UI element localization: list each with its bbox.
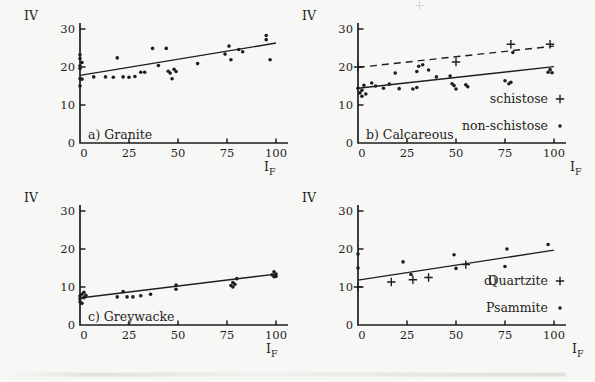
greywacke-point (149, 292, 153, 296)
schistose-legend-marker-icon (556, 95, 564, 103)
granite-point (92, 75, 96, 79)
non-schistose-point (370, 81, 374, 85)
figure-page: 01020300255075100a) GraniteIVIF 01020300… (0, 0, 595, 382)
y-tick-label: 10 (338, 280, 353, 294)
Quartzite-point (462, 260, 470, 268)
non-schistose-point (360, 94, 364, 98)
Quartzite-point (409, 276, 417, 284)
solid-trend-line (80, 43, 276, 75)
x-tick-label: 100 (265, 328, 287, 342)
Quartzite-point (354, 283, 362, 291)
legend-label-Psammite: Psammite (486, 300, 548, 315)
y-tick-label: 10 (60, 280, 75, 294)
x-tick-label: 100 (543, 328, 565, 342)
non-schistose-point (397, 87, 401, 91)
granite-point (78, 84, 82, 88)
non-schistose-legend-marker-icon (558, 124, 562, 128)
y-tick-label: 30 (338, 204, 353, 218)
non-schistose-point (509, 80, 513, 84)
granite-point (223, 52, 227, 56)
non-schistose-point (415, 86, 419, 90)
x-tick-label: 0 (358, 146, 365, 160)
x-tick-label: 100 (543, 146, 565, 160)
x-tick-label: 50 (171, 146, 186, 160)
x-tick-label: 75 (220, 146, 235, 160)
y-tick-label: 20 (60, 242, 75, 256)
x-axis-label: IF (570, 159, 582, 177)
x-tick-label: 25 (400, 146, 415, 160)
schistose-point (507, 40, 515, 48)
x-tick-label: 50 (449, 328, 464, 342)
non-schistose-point (548, 68, 552, 72)
axes (80, 205, 288, 325)
y-tick-label: 20 (338, 242, 353, 256)
x-tick-label: 100 (265, 146, 287, 160)
axes (80, 23, 288, 143)
granite-point (127, 75, 131, 79)
greywacke-point (80, 302, 84, 306)
y-axis-label: IV (302, 8, 317, 23)
granite-point (115, 56, 119, 60)
x-tick-label: 0 (358, 328, 365, 342)
y-tick-label: 20 (338, 60, 353, 74)
granite-point (104, 75, 108, 79)
Psammite-point (356, 252, 360, 256)
y-tick-label: 10 (60, 98, 75, 112)
x-tick-label: 25 (122, 328, 137, 342)
greywacke-point (233, 283, 237, 287)
Psammite-point (356, 266, 360, 270)
non-schistose-point (511, 51, 515, 55)
panel-title: c) Greywacke (88, 309, 174, 324)
y-tick-label: 30 (60, 22, 75, 36)
y-tick-label: 0 (346, 318, 353, 332)
legend-label-schistose: schistose (490, 91, 548, 106)
y-tick-label: 0 (346, 136, 353, 150)
y-axis-label: IV (302, 190, 317, 205)
panel-c-greywacke-chart: 01020300255075100c) GreywackeIVIF (18, 185, 314, 371)
non-schistose-point (417, 64, 421, 68)
non-schistose-point (374, 84, 378, 88)
greywacke-point (125, 295, 129, 299)
Quartzite-point (424, 273, 432, 281)
granite-point (121, 75, 125, 79)
granite-point (151, 47, 155, 51)
greywacke-point (174, 283, 178, 287)
non-schistose-point (550, 71, 554, 75)
y-axis-label: IV (24, 8, 39, 23)
x-axis-label: IF (264, 159, 276, 177)
Psammite-point (409, 273, 413, 277)
non-schistose-point (503, 79, 507, 83)
granite-point (264, 34, 268, 38)
x-tick-label: 75 (220, 328, 235, 342)
Psammite-point (401, 260, 405, 264)
Psammite-point (452, 253, 456, 257)
y-tick-label: 20 (60, 60, 75, 74)
Psammite-point (503, 265, 507, 269)
non-schistose-point (356, 86, 360, 90)
Psammite-point (454, 267, 458, 271)
x-tick-label: 0 (80, 146, 87, 160)
non-schistose-point (388, 82, 392, 86)
greywacke-point (115, 295, 119, 299)
non-schistose-point (411, 87, 415, 91)
x-tick-label: 50 (449, 146, 464, 160)
y-tick-label: 30 (60, 204, 75, 218)
Quartzite-point (387, 278, 395, 286)
schistose-point (354, 63, 362, 71)
solid-trend-line (358, 67, 554, 89)
granite-point (164, 47, 168, 51)
greywacke-point (82, 291, 86, 295)
greywacke-point (174, 287, 178, 291)
granite-point (268, 58, 272, 62)
y-tick-label: 30 (338, 22, 353, 36)
greywacke-point (84, 294, 88, 298)
Psammite-point (505, 247, 509, 251)
panel-title: a) Granite (88, 127, 152, 142)
x-axis-label: IF (266, 341, 278, 359)
granite-point (112, 75, 116, 79)
x-tick-label: 25 (122, 146, 137, 160)
granite-point (78, 57, 82, 61)
granite-point (133, 75, 137, 79)
greywacke-point (235, 277, 239, 281)
y-tick-label: 0 (68, 318, 75, 332)
